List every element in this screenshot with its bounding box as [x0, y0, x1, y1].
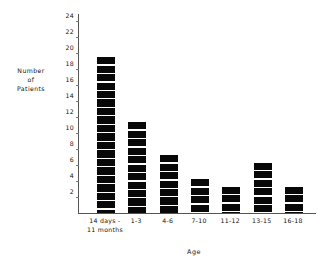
y-tick-label: 6 [54, 157, 74, 163]
bar[interactable] [285, 187, 303, 213]
y-tick-label: 12 [54, 109, 74, 115]
y-axis-label-line-2: of [8, 75, 54, 84]
y-tick-label: 18 [54, 61, 74, 67]
x-tick-label: 16-18 [267, 216, 319, 225]
x-axis-title: Age [0, 248, 332, 256]
x-tick-label-line-2: 11 months [79, 225, 131, 234]
y-tick-label: 16 [54, 77, 74, 83]
y-tick-label: 4 [54, 173, 74, 179]
y-axis-label-line-3: Patients [8, 84, 54, 93]
y-tick-label: 2 [54, 189, 74, 195]
bar[interactable] [254, 163, 272, 213]
plot-area: 24681012141618202224 14 days -11 months1… [78, 14, 316, 214]
y-tick-label: 22 [54, 29, 74, 35]
y-tick-label: 10 [54, 125, 74, 131]
y-tick-label: 8 [54, 141, 74, 147]
bar[interactable] [222, 187, 240, 213]
bar-chart-figure: Number of Patients 24681012141618202224 … [0, 0, 332, 269]
y-axis-label-line-1: Number [8, 66, 54, 75]
y-tick-label: 14 [54, 93, 74, 99]
bar[interactable] [160, 155, 178, 213]
y-tick-label: 20 [54, 45, 74, 51]
bar-group [79, 14, 316, 213]
y-tick-label: 24 [54, 13, 74, 19]
bar[interactable] [97, 57, 115, 213]
y-axis-label: Number of Patients [8, 66, 54, 93]
bar[interactable] [191, 179, 209, 213]
x-axis-line [78, 213, 316, 214]
x-tick-label-line-1: 16-18 [267, 216, 319, 225]
bar[interactable] [128, 122, 146, 213]
